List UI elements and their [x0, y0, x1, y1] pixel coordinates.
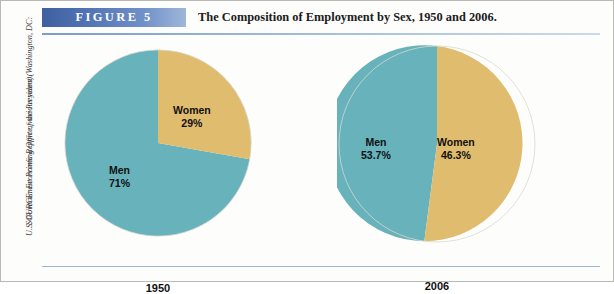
pie-chart-1950-svg — [63, 48, 253, 238]
figure-header: FIGURE 5 The Composition of Employment b… — [42, 8, 602, 30]
pie-slice-2006-men — [337, 45, 437, 241]
pie-slice-1950-women — [158, 50, 251, 159]
figure-number-label: FIGURE 5 — [75, 10, 152, 25]
figure-title: The Composition of Employment by Sex, 19… — [198, 10, 497, 25]
pie-chart-1950: Men 71% Women 29% — [63, 48, 253, 238]
pie-caption-2006: 2006 — [377, 280, 497, 292]
pie-chart-2006: Men 53.7% Women 46.3% — [337, 44, 537, 244]
pie-chart-2006-svg — [337, 44, 537, 244]
header-divider — [42, 33, 600, 35]
footer-divider — [42, 266, 600, 267]
pie-caption-1950: 1950 — [98, 282, 218, 294]
figure-number-banner: FIGURE 5 — [42, 8, 186, 27]
charts-area: Men 71% Women 29% Men 53.7% Wome — [0, 36, 614, 248]
